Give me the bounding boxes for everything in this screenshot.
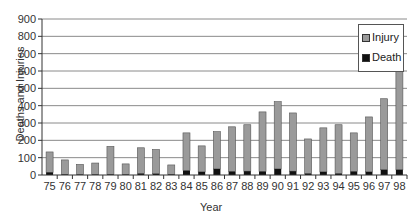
legend-item-death: Death — [362, 51, 401, 63]
x-tick-label: 84 — [180, 180, 192, 192]
y-tick-label: 900 — [18, 13, 36, 25]
bar-injury — [305, 139, 312, 174]
bar-injury — [289, 113, 296, 171]
x-tick-label: 88 — [241, 180, 253, 192]
bar-injury — [77, 164, 84, 174]
bar-injury — [365, 117, 372, 172]
x-tick-label: 91 — [287, 180, 299, 192]
legend-label-death: Death — [372, 51, 401, 63]
bar-injury — [107, 146, 114, 174]
x-tick-label: 93 — [317, 180, 329, 192]
bar-injury — [198, 146, 205, 172]
x-tick-label: 89 — [256, 180, 268, 192]
bar-death — [381, 170, 388, 175]
x-tick-label: 75 — [43, 180, 55, 192]
x-tick-label: 95 — [348, 180, 360, 192]
bar-injury — [259, 112, 266, 172]
x-tick-label: 97 — [378, 180, 390, 192]
bar-death — [289, 171, 296, 175]
x-axis-label: Year — [200, 201, 222, 213]
bar-injury — [244, 125, 251, 171]
x-tick-label: 86 — [211, 180, 223, 192]
stacked-bar-chart: 0100200300400500600700800900 75767778798… — [0, 0, 420, 222]
legend-label-injury: Injury — [372, 31, 399, 43]
bar-death — [244, 171, 251, 175]
bar-injury — [168, 165, 175, 175]
bar-death — [213, 169, 220, 175]
x-tick-label: 92 — [302, 180, 314, 192]
bar-death — [259, 172, 266, 175]
legend-item-injury: Injury — [362, 31, 399, 43]
x-tick-label: 96 — [363, 180, 375, 192]
bar-injury — [274, 102, 281, 169]
bar-death — [274, 169, 281, 175]
bar-injury — [137, 148, 144, 174]
x-tick-label: 80 — [120, 180, 132, 192]
x-axis-ticks: 7576777879808182838485868788899091929394… — [42, 175, 407, 192]
bar-injury — [381, 99, 388, 170]
bar-death — [229, 172, 236, 175]
x-tick-label: 83 — [165, 180, 177, 192]
bar-injury — [320, 128, 327, 172]
x-tick-label: 90 — [272, 180, 284, 192]
y-axis-label: Deaths and Injuries — [14, 34, 26, 154]
x-tick-label: 78 — [89, 180, 101, 192]
x-tick-label: 79 — [104, 180, 116, 192]
bar-injury — [350, 133, 357, 172]
bar-death — [350, 172, 357, 175]
legend: Injury Death — [358, 24, 404, 72]
bars — [46, 29, 403, 175]
bar-death — [396, 170, 403, 175]
bar-injury — [153, 150, 160, 174]
x-tick-label: 87 — [226, 180, 238, 192]
x-tick-label: 77 — [74, 180, 86, 192]
bar-injury — [46, 152, 53, 172]
bar-injury — [92, 163, 99, 175]
x-tick-label: 76 — [59, 180, 71, 192]
bar-injury — [213, 132, 220, 169]
x-tick-label: 82 — [150, 180, 162, 192]
x-tick-label: 94 — [332, 180, 344, 192]
injury-swatch-icon — [362, 34, 370, 42]
bar-injury — [183, 133, 190, 171]
bar-injury — [229, 127, 236, 172]
bar-injury — [61, 160, 68, 175]
bar-injury — [122, 164, 129, 175]
bar-death — [183, 171, 190, 175]
x-tick-label: 81 — [135, 180, 147, 192]
death-swatch-icon — [362, 54, 370, 62]
y-tick-label: 0 — [30, 169, 36, 181]
bar-injury — [335, 125, 342, 174]
x-tick-label: 85 — [196, 180, 208, 192]
x-tick-label: 98 — [393, 180, 405, 192]
